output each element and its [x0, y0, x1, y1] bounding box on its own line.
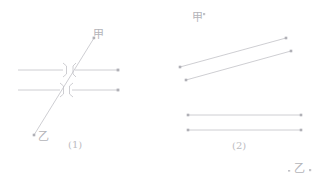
panel-1-label-jia: 甲	[93, 29, 104, 40]
endpoint-dot-upper-right	[117, 69, 120, 72]
endpoint-dot-diagonal-bottom	[33, 134, 36, 137]
endpoint-dot-flat-lower-left	[187, 129, 190, 132]
tick-mark-yi-left	[288, 170, 290, 172]
tick-mark-jia-superscript	[203, 13, 205, 15]
panel-1-caption: (1)	[68, 140, 82, 150]
panel-1-label-yi: 乙	[38, 131, 49, 142]
slant-line-lower	[186, 51, 291, 80]
endpoint-dot-slant-lower-left	[185, 79, 188, 82]
endpoint-dot-flat-lower-right	[300, 129, 303, 132]
tick-mark-yi-right	[309, 169, 311, 171]
endpoint-dot-flat-upper-left	[187, 114, 190, 117]
endpoint-dot-slant-lower-right	[290, 50, 293, 53]
panel-2-label-jia: 甲	[192, 12, 203, 23]
endpoint-dot-slant-upper-right	[285, 37, 288, 40]
endpoint-dot-lower-right	[117, 89, 120, 92]
break-bracket-upper-left	[63, 63, 67, 77]
panel-2-label-yi: 乙	[294, 163, 305, 174]
figure-canvas	[0, 0, 318, 186]
figure-root: 甲 乙 (1) 甲 (2) 乙	[0, 0, 318, 186]
endpoint-dot-slant-upper-left	[179, 66, 182, 69]
panel-2-caption: (2)	[232, 141, 246, 151]
slant-line-upper	[180, 38, 286, 67]
endpoint-dot-flat-upper-right	[300, 114, 303, 117]
jia-yi-axis-line	[34, 38, 94, 135]
panel-1-group	[18, 37, 119, 137]
